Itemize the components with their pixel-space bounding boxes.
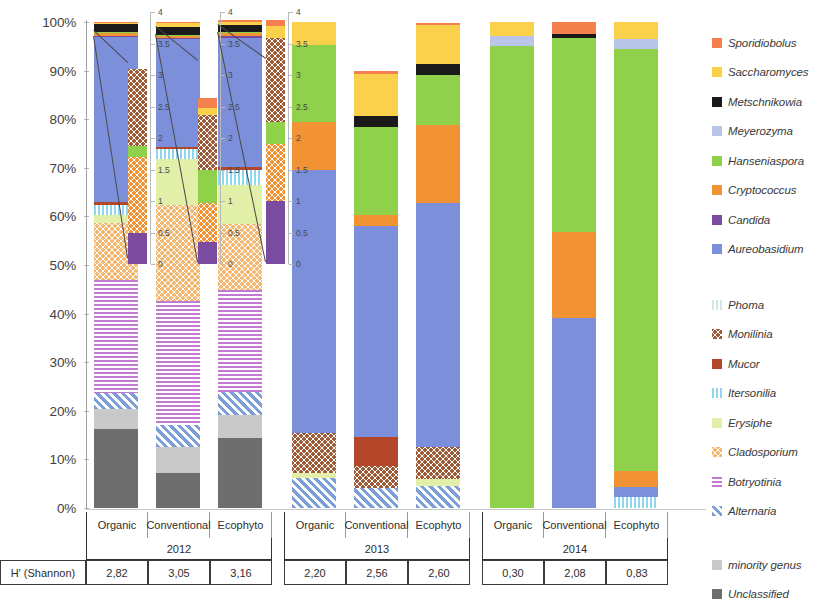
inset-segment-cryptococcus [266,144,285,201]
bar-segment-monilinia [292,433,336,473]
table-header-treatment: Conventional [544,512,606,538]
bar-segment-cryptococcus [614,471,658,488]
legend-swatch-icon [712,359,722,369]
shannon-table: OrganicConventionalEcophytoOrganicConven… [0,512,706,576]
x-axis-line [86,509,706,510]
legend-swatch-icon [712,447,722,457]
inset-tick-mark [289,12,293,13]
inset-segment-candida [266,201,285,264]
legend-swatch-icon [712,329,722,339]
inset-tick-label: 0 [296,259,301,269]
table-header-year: 2013 [284,538,470,560]
legend-item-botryotinia[interactable]: Botryotinia [712,475,781,488]
table-header-treatment: Organic [86,512,148,538]
inset-tick-label: 1 [296,196,301,206]
inset-tick-mark [289,44,293,45]
table-cell-shannon: 2,60 [408,560,470,585]
table-cell-shannon: 2,56 [346,560,408,585]
bar-segment-aureobasidium [552,318,596,509]
legend-label: Mucor [728,358,759,370]
table-header-year: 2012 [86,538,272,560]
legend-item-itersonilia[interactable]: Itersonilia [712,387,776,400]
table-header-treatment: Ecophyto [606,512,668,538]
bar-segment-erysiphe [416,479,460,486]
y-axis-tick-label: 40% [50,306,76,321]
legend-item-alternaria[interactable]: Alternaria [712,505,776,518]
inset-tick-label: 1.5 [296,165,308,175]
inset-tick-mark [289,233,293,234]
legend-swatch-icon [712,560,722,570]
bar-segment-unclassified [94,429,138,508]
bar-segment-alternaria [416,486,460,508]
y-axis-tick-label: 20% [50,403,76,418]
legend-label: minority genus [728,559,801,571]
legend-swatch-icon [712,477,722,487]
legend-label: Unclassified [728,588,789,600]
inset-panel-3: 43.532.521.510.50 [0,0,813,300]
legend-item-minority-genus[interactable]: minority genus [712,558,801,571]
bar-segment-mucor [354,437,398,466]
table-header-treatment: Organic [482,512,544,538]
legend-label: Itersonilia [728,387,776,399]
inset-segment-sporidiobolus [266,20,285,26]
bar-segment-alternaria [94,393,138,410]
table-cell-shannon: 3,05 [148,560,210,585]
legend-item-unclassified[interactable]: Unclassified [712,588,789,601]
y-axis-tick-label: 30% [50,355,76,370]
legend-item-mucor[interactable]: Mucor [712,357,759,370]
bar-segment-itersonilia [614,497,658,508]
table-header-treatment: Organic [284,512,346,538]
legend-label: Monilinia [728,328,772,340]
inset-tick-label: 2.5 [296,102,308,112]
bar-segment-botryotinia [156,301,200,425]
inset-segment-saccharomyces [266,26,285,39]
legend-swatch-icon [712,388,722,398]
bar-segment-minority genus [156,447,200,473]
bar-segment-alternaria [292,478,336,508]
legend-label: Cladosporium [728,446,798,458]
inset-tick-label: 4 [296,7,301,17]
table-row-header: H' (Shannon) [0,560,86,585]
inset-tick-label: 3 [296,70,301,80]
legend-item-monilinia[interactable]: Monilinia [712,328,772,341]
bar-segment-unclassified [218,438,262,508]
table-header-treatment: Ecophyto [408,512,470,538]
bar-segment-aureobasidium [614,487,658,497]
legend-item-erysiphe[interactable]: Erysiphe [712,416,772,429]
table-cell-shannon: 0,83 [606,560,668,585]
table-cell-shannon: 3,16 [210,560,272,585]
table-cell-shannon: 2,82 [86,560,148,585]
table-header-treatment: Conventional [346,512,408,538]
legend-label: Alternaria [728,505,776,517]
bar-segment-unclassified [156,473,200,508]
legend-swatch-icon [712,589,722,599]
inset-tick-label: 2 [296,133,301,143]
bar-segment-monilinia [354,466,398,488]
inset-tick-mark [289,75,293,76]
table-cell-shannon: 2,08 [544,560,606,585]
inset-tick-label: 0.5 [296,228,308,238]
bar-segment-erysiphe [292,473,336,478]
inset-tick-mark [289,107,293,108]
inset-tick-mark [289,264,293,265]
inset-tick-mark [289,170,293,171]
bar-segment-minority genus [218,415,262,438]
bar-segment-alternaria [156,425,200,447]
inset-segment-mucor [266,38,285,121]
inset-bar-3[interactable] [266,12,285,264]
legend-swatch-icon [712,300,722,310]
table-header-treatment: Ecophyto [210,512,272,538]
table-cell-shannon: 0,30 [482,560,544,585]
legend-item-cladosporium[interactable]: Cladosporium [712,446,798,459]
table-cell-shannon: 2,20 [284,560,346,585]
legend-label: Phoma [728,299,764,311]
bar-segment-botryotinia [218,290,262,392]
legend-label: Erysiphe [728,417,772,429]
legend-swatch-icon [712,418,722,428]
inset-tick-label: 3.5 [296,39,308,49]
legend-label: Botryotinia [728,476,781,488]
inset-tick-mark [289,201,293,202]
bar-segment-monilinia [416,447,460,479]
table-header-treatment: Conventional [148,512,210,538]
legend-swatch-icon [712,506,722,516]
